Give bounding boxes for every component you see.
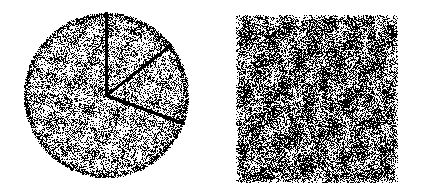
figure-panel [0,0,422,194]
random-dot-figures-canvas [0,0,422,194]
